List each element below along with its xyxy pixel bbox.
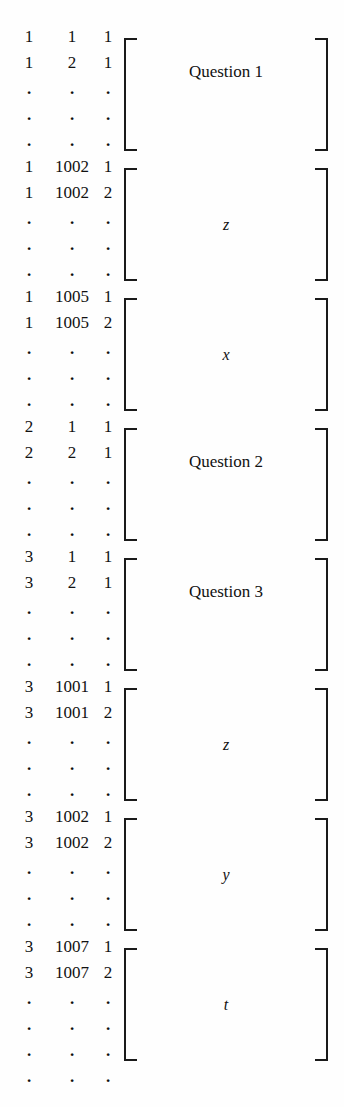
index-cell-col2: . — [48, 258, 96, 284]
index-cell-col1: 1 — [12, 154, 46, 180]
index-cell-col2: 1005 — [48, 310, 96, 336]
index-cell-col3: . — [96, 1012, 120, 1038]
index-row: 321 — [0, 570, 120, 596]
index-cell-col3: . — [96, 726, 120, 752]
index-row: 310071 — [0, 934, 120, 960]
index-cell-col1: 3 — [12, 934, 46, 960]
right-bracket-icon — [315, 38, 328, 151]
index-row: ... — [0, 648, 120, 674]
index-cell-col3: . — [96, 908, 120, 934]
index-cell-col1: 1 — [12, 284, 46, 310]
block-label: z — [137, 215, 315, 235]
index-cell-col1: . — [12, 206, 46, 232]
index-row-trailing: ... — [0, 1064, 120, 1090]
index-cell-col2: . — [48, 1064, 96, 1090]
index-cell-col2: 1002 — [48, 804, 96, 830]
index-cell-col2: . — [48, 986, 96, 1012]
index-cell-col1: . — [12, 882, 46, 908]
left-bracket-icon — [124, 948, 137, 1061]
index-row: ... — [0, 102, 120, 128]
index-cell-col1: 3 — [12, 804, 46, 830]
index-cell-col1: 3 — [12, 700, 46, 726]
block-label: y — [137, 865, 315, 885]
index-cell-col2: 1002 — [48, 830, 96, 856]
index-row: ... — [0, 206, 120, 232]
index-cell-col3: 1 — [96, 544, 120, 570]
index-cell-col1: . — [12, 726, 46, 752]
index-cell-col3: . — [96, 206, 120, 232]
index-row: ... — [0, 1038, 120, 1064]
index-cell-col3: 2 — [96, 700, 120, 726]
index-cell-col3: 1 — [96, 804, 120, 830]
left-bracket-icon — [124, 558, 137, 671]
index-cell-col1: . — [12, 648, 46, 674]
index-row: 111 — [0, 24, 120, 50]
index-cell-col3: . — [96, 232, 120, 258]
index-cell-col3: . — [96, 466, 120, 492]
index-cell-col1: . — [12, 1012, 46, 1038]
index-cell-col1: . — [12, 518, 46, 544]
index-cell-col1: . — [12, 362, 46, 388]
index-row: 311 — [0, 544, 120, 570]
index-cell-col2: . — [48, 466, 96, 492]
index-cell-col3: . — [96, 102, 120, 128]
index-cell-col3: . — [96, 388, 120, 414]
index-cell-col3: . — [96, 1038, 120, 1064]
index-row: ... — [0, 908, 120, 934]
index-cell-col1: 3 — [12, 674, 46, 700]
index-cell-col2: . — [48, 778, 96, 804]
index-cell-col1: . — [12, 128, 46, 154]
bracket-group: z — [124, 168, 328, 281]
index-cell-col1: . — [12, 466, 46, 492]
right-bracket-icon — [315, 168, 328, 281]
index-cell-col1: . — [12, 232, 46, 258]
index-cell-col3: 1 — [96, 674, 120, 700]
index-cell-col3: . — [96, 882, 120, 908]
block-label: t — [137, 995, 315, 1015]
index-cell-col2: . — [48, 336, 96, 362]
index-cell-col1: . — [12, 492, 46, 518]
index-cell-col3: 1 — [96, 24, 120, 50]
index-cell-col1: . — [12, 388, 46, 414]
index-row: ... — [0, 232, 120, 258]
index-cell-col2: . — [48, 856, 96, 882]
index-row: ... — [0, 258, 120, 284]
index-cell-col2: . — [48, 752, 96, 778]
index-cell-col2: . — [48, 128, 96, 154]
left-bracket-icon — [124, 38, 137, 151]
index-cell-col2: 2 — [48, 570, 96, 596]
right-bracket-icon — [315, 558, 328, 671]
index-row: ... — [0, 726, 120, 752]
block-label: Question 3 — [137, 582, 315, 602]
index-cell-col3: . — [96, 986, 120, 1012]
index-cell-col1: . — [12, 778, 46, 804]
index-row: 310022 — [0, 830, 120, 856]
index-cell-col2: 2 — [48, 50, 96, 76]
index-cell-col3: . — [96, 856, 120, 882]
index-cell-col1: . — [12, 1038, 46, 1064]
index-row: 110052 — [0, 310, 120, 336]
left-bracket-icon — [124, 168, 137, 281]
index-row: 310021 — [0, 804, 120, 830]
index-cell-col1: . — [12, 258, 46, 284]
index-cell-col2: . — [48, 622, 96, 648]
index-cell-col3: . — [96, 622, 120, 648]
index-cell-col3: 2 — [96, 960, 120, 986]
index-cell-col3: 1 — [96, 284, 120, 310]
index-cell-col1: . — [12, 596, 46, 622]
index-cell-col3: . — [96, 518, 120, 544]
index-cell-col1: . — [12, 986, 46, 1012]
index-cell-col2: . — [48, 726, 96, 752]
left-bracket-icon — [124, 428, 137, 541]
index-row: 211 — [0, 414, 120, 440]
index-row: 310072 — [0, 960, 120, 986]
index-cell-col2: 1002 — [48, 154, 96, 180]
index-row: ... — [0, 336, 120, 362]
index-cell-col1: 3 — [12, 544, 46, 570]
index-row: ... — [0, 492, 120, 518]
index-cell-col3: 1 — [96, 50, 120, 76]
index-row: 110022 — [0, 180, 120, 206]
index-cell-col2: . — [48, 648, 96, 674]
block-label: z — [137, 735, 315, 755]
index-cell-col1: 3 — [12, 570, 46, 596]
